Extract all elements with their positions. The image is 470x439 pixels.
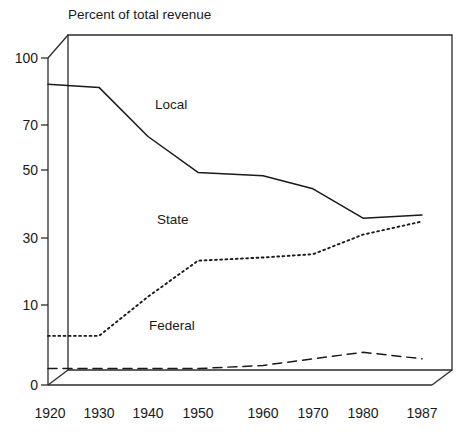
depth-edge-top	[48, 35, 68, 58]
series-line-state	[48, 222, 422, 336]
series-line-local	[48, 84, 422, 218]
x-axis-label-1980: 1980	[347, 405, 378, 421]
y-axis-labels: 100 70 50 30 10 0	[15, 50, 39, 393]
chart-title: Percent of total revenue	[68, 7, 211, 22]
y-axis-label-10: 10	[22, 297, 38, 313]
x-axis-label-1950: 1950	[182, 405, 213, 421]
x-axis-label-1987: 1987	[406, 405, 437, 421]
series-annotation-state: State	[157, 212, 189, 227]
x-axis-label-1920: 1920	[34, 405, 65, 421]
depth-edge-right	[432, 370, 452, 385]
revenue-share-chart: 100 70 50 30 10 0 1920 1930 1940 1950 19…	[0, 0, 470, 439]
x-axis-label-1970: 1970	[297, 405, 328, 421]
series-line-federal	[48, 352, 422, 368]
chart-frame	[48, 35, 452, 385]
y-axis-label-0: 0	[30, 377, 38, 393]
y-axis-label-100: 100	[15, 50, 39, 66]
y-axis-label-70: 70	[22, 117, 38, 133]
y-axis-ticks	[41, 58, 48, 385]
back-wall	[68, 35, 452, 370]
depth-edge-bottom	[48, 370, 68, 385]
series-annotation-federal: Federal	[149, 318, 195, 333]
x-axis-labels: 1920 1930 1940 1950 1960 1970 1980 1987	[34, 405, 437, 421]
x-axis-label-1930: 1930	[83, 405, 114, 421]
x-axis-label-1940: 1940	[132, 405, 163, 421]
plot-series	[48, 84, 422, 368]
series-annotation-local: Local	[155, 97, 187, 112]
x-axis-label-1960: 1960	[247, 405, 278, 421]
chart-canvas: 100 70 50 30 10 0 1920 1930 1940 1950 19…	[0, 0, 470, 439]
y-axis-label-50: 50	[22, 162, 38, 178]
y-axis-label-30: 30	[22, 230, 38, 246]
